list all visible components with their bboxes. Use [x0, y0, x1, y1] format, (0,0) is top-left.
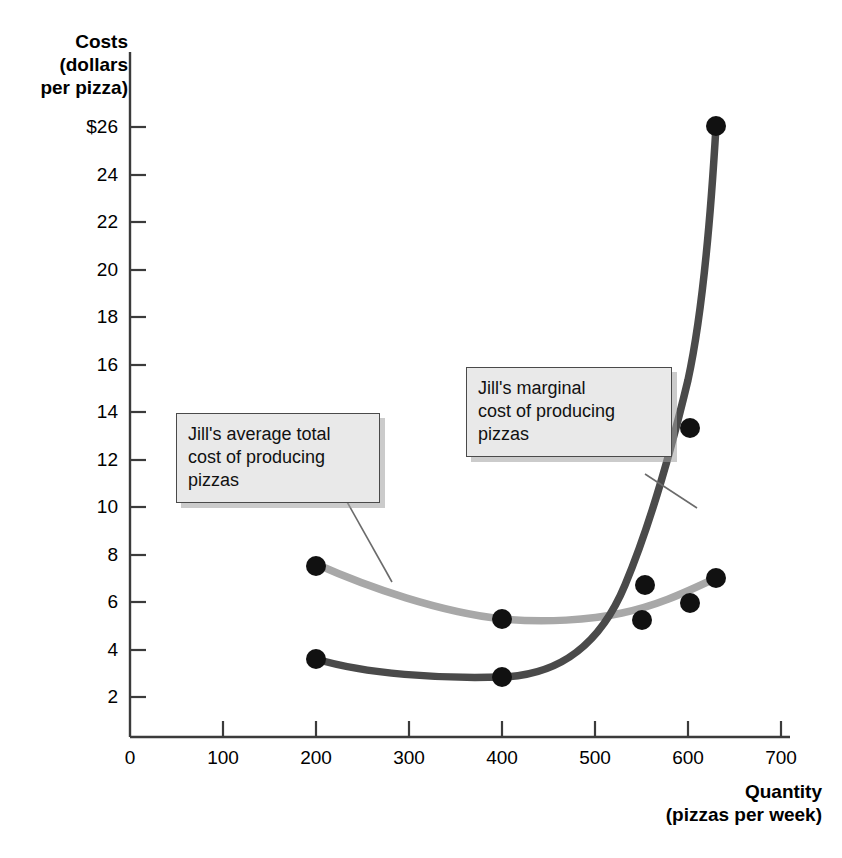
cost-curves-chart: Costs (dollars per pizza) Quantity (pizz… — [0, 0, 842, 858]
mc-callout-box: Jill's marginal cost of producing pizzas — [466, 367, 672, 457]
x-axis-ticks — [223, 721, 781, 737]
y-axis-ticks — [130, 127, 146, 697]
data-point-mc-620 — [706, 116, 726, 136]
data-point-mc-550 — [635, 575, 655, 595]
data-point-atc-450 — [492, 609, 512, 629]
average-total-cost-curve — [316, 564, 716, 621]
data-point-mc-200 — [306, 649, 326, 669]
data-point-atc-600 — [680, 593, 700, 613]
data-point-atc-550 — [632, 610, 652, 630]
plot-canvas — [0, 0, 842, 858]
data-point-atc-620 — [706, 568, 726, 588]
data-point-mc-600 — [680, 418, 700, 438]
data-point-atc-200 — [306, 556, 326, 576]
atc-callout-box: Jill's average total cost of producing p… — [176, 413, 380, 503]
data-point-mc-450 — [492, 667, 512, 687]
atc-callout-leader-line — [346, 500, 392, 582]
